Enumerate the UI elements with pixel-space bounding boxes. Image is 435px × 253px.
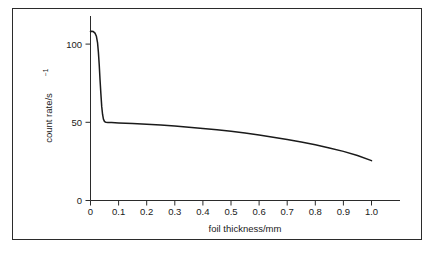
y-axis-title-exponent: −1: [42, 68, 49, 76]
data-curve-count-rate: [91, 31, 372, 160]
y-tick-labels: 0 50 100: [66, 39, 82, 206]
x-tick-label-8: 0.8: [309, 206, 322, 217]
x-tick-label-1: 0.1: [112, 206, 125, 217]
x-tick-marks: [91, 201, 372, 206]
y-tick-label-0: 0: [77, 195, 82, 206]
x-tick-label-10: 1.0: [365, 206, 378, 217]
x-tick-label-4: 0.4: [196, 206, 209, 217]
x-tick-label-6: 0.6: [252, 206, 265, 217]
x-tick-label-2: 0.2: [140, 206, 153, 217]
chart-canvas: 0 50 100 0 0.1 0.2 0.3 0.4 0.5 0.6: [0, 0, 435, 253]
y-tick-label-50: 50: [71, 117, 82, 128]
y-axis-title: count rate/s: [43, 93, 54, 143]
x-axis-title: foil thickness/mm: [209, 223, 282, 234]
x-tick-label-7: 0.7: [281, 206, 294, 217]
y-tick-label-100: 100: [66, 39, 82, 50]
y-tick-marks: [86, 44, 91, 200]
x-tick-label-3: 0.3: [168, 206, 181, 217]
x-tick-label-5: 0.5: [224, 206, 237, 217]
x-tick-labels: 0 0.1 0.2 0.3 0.4 0.5 0.6 0.7 0.8 0.9 1.…: [88, 206, 378, 217]
x-tick-label-9: 0.9: [337, 206, 350, 217]
x-tick-label-0: 0: [88, 206, 93, 217]
chart-screenshot: 0 50 100 0 0.1 0.2 0.3 0.4 0.5 0.6: [0, 0, 435, 253]
y-axis-title-group: count rate/s −1: [42, 68, 54, 143]
